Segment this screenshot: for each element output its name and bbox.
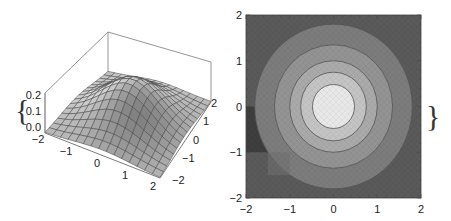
surface-y-tick-label: −1: [182, 152, 195, 164]
contour-brace: }: [426, 99, 440, 132]
contour-y-tick-label: 2: [236, 9, 242, 21]
chart-canvas: −2−1012−2−10120.00.10.2 { −2−1012−2−1012…: [0, 0, 451, 221]
surface-y-tick-label: 2: [211, 97, 217, 109]
surface-x-tick-label: 0: [94, 157, 100, 169]
contour-x-tick-label: 1: [374, 203, 380, 215]
contour-x-tick-label: 2: [418, 203, 424, 215]
contour-y-tick-label: 0: [236, 101, 242, 113]
contour-x-tick-label: −2: [240, 203, 253, 215]
surface-x-tick-label: −2: [32, 133, 45, 145]
contour-y-tick-label: −1: [229, 146, 242, 158]
contour-x-tick-label: −1: [283, 203, 296, 215]
surface-x-tick-label: 2: [150, 180, 156, 192]
surface-y-tick-label: 1: [203, 115, 209, 127]
surface-y-tick-label: −2: [172, 174, 185, 186]
contour-y-tick-label: −2: [229, 192, 242, 204]
contour-plot: −2−1012−2−1012 }: [229, 9, 440, 215]
z-axis-brace: {: [15, 93, 29, 126]
surface-x-tick-label: 1: [122, 169, 128, 181]
contour-bands: [246, 15, 421, 198]
surface-y-tick-label: 0: [193, 134, 199, 146]
surface-x-tick-label: −1: [60, 145, 73, 157]
surface-plot: −2−1012−2−10120.00.10.2 {: [15, 32, 217, 192]
contour-y-tick-label: 1: [236, 55, 242, 67]
contour-x-tick-label: 0: [330, 203, 336, 215]
